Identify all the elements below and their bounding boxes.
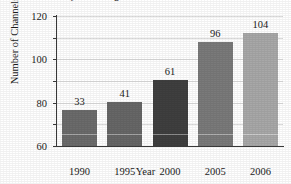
y-axis-label: Number of Channels [9, 0, 20, 101]
bar: 61 [153, 80, 188, 146]
bar: 96 [198, 42, 233, 146]
bar-value-label: 33 [74, 96, 85, 107]
bar: 33 [62, 110, 97, 146]
bar-value-label: 96 [210, 28, 221, 39]
y-tick-label: 60 [37, 141, 48, 152]
chart-title: by the Average Home in the United States [0, 0, 291, 1]
y-tick-mark: 100 [53, 38, 57, 39]
bar: 41 [107, 102, 142, 146]
y-tick-mark: 60 [53, 81, 57, 82]
y-tick-label: 100 [31, 54, 47, 65]
plot-area: 20406080100120 33416196104 1990199520002… [57, 16, 283, 146]
y-tick-mark [53, 146, 57, 147]
x-axis-line [56, 146, 284, 147]
gridline [57, 16, 283, 17]
chart-title-visible-line: by the Average Home in the United States [0, 0, 291, 1]
bar: 104 [243, 33, 278, 146]
bar-value-label: 41 [120, 88, 131, 99]
bar-value-label: 104 [253, 19, 269, 30]
bar-chart: by the Average Home in the United States… [0, 0, 291, 184]
y-tick-label: 80 [37, 97, 48, 108]
y-tick-label: 120 [31, 11, 47, 22]
y-tick-mark: 120 [53, 16, 57, 17]
bar-value-label: 61 [165, 66, 176, 77]
y-tick-mark: 80 [53, 59, 57, 60]
x-axis-label: Year [0, 166, 291, 177]
y-tick-mark: 40 [53, 103, 57, 104]
y-tick-mark: 20 [53, 124, 57, 125]
